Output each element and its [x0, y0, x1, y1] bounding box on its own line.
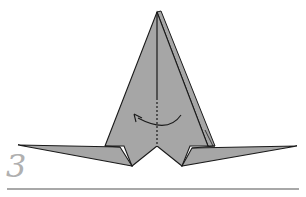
right-wing [182, 146, 297, 166]
divider-rule [7, 188, 299, 190]
origami-diagram [0, 0, 306, 197]
left-wing [18, 145, 132, 166]
step-number: 3 [6, 150, 26, 182]
